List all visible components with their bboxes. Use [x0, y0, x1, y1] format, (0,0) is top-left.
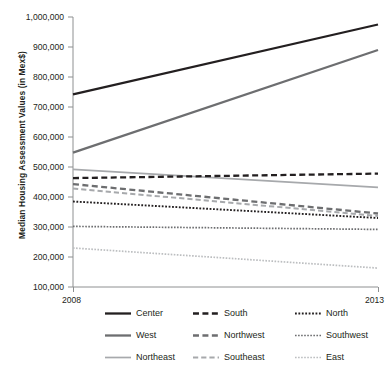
- series-line-south: [73, 174, 378, 179]
- legend-label: Northeast: [136, 352, 175, 362]
- legend-line-sample-center: [105, 309, 131, 318]
- x-tick-mark: [378, 287, 379, 292]
- legend-label: East: [326, 352, 344, 362]
- chart-legend: CenterSouthNorthWestNorthwestSouthwestNo…: [105, 302, 390, 368]
- legend-item-east[interactable]: East: [295, 352, 390, 362]
- legend-item-west[interactable]: West: [105, 330, 193, 340]
- legend-line-sample-southwest: [295, 331, 321, 340]
- series-line-west: [73, 50, 378, 153]
- x-tick-mark: [73, 287, 74, 292]
- legend-line-sample-southeast: [193, 353, 219, 362]
- series-line-southeast: [73, 189, 378, 216]
- legend-label: Northwest: [224, 330, 265, 340]
- legend-item-northeast[interactable]: Northeast: [105, 352, 193, 362]
- legend-line-sample-northeast: [105, 353, 131, 362]
- legend-item-southeast[interactable]: Southeast: [193, 352, 295, 362]
- chart-figure: Median Housing Assessment Values (in Mex…: [0, 0, 392, 372]
- legend-line-sample-east: [295, 353, 321, 362]
- legend-label: Center: [136, 308, 163, 318]
- series-lines: [73, 25, 378, 269]
- series-line-northwest: [73, 184, 378, 213]
- legend-item-southwest[interactable]: Southwest: [295, 330, 390, 340]
- axis-lines: [73, 17, 378, 287]
- legend-line-sample-south: [193, 309, 219, 318]
- legend-label: Southwest: [326, 330, 368, 340]
- legend-item-north[interactable]: North: [295, 308, 390, 318]
- legend-line-sample-northwest: [193, 331, 219, 340]
- legend-label: North: [326, 308, 348, 318]
- series-line-northeast: [73, 169, 378, 187]
- series-line-east: [73, 248, 378, 268]
- series-line-southwest: [73, 226, 378, 229]
- series-line-center: [73, 25, 378, 95]
- legend-label: South: [224, 308, 248, 318]
- legend-item-northwest[interactable]: Northwest: [193, 330, 295, 340]
- legend-line-sample-west: [105, 331, 131, 340]
- legend-line-sample-north: [295, 309, 321, 318]
- legend-label: West: [136, 330, 156, 340]
- legend-item-center[interactable]: Center: [105, 308, 193, 318]
- legend-item-south[interactable]: South: [193, 308, 295, 318]
- legend-label: Southeast: [224, 352, 265, 362]
